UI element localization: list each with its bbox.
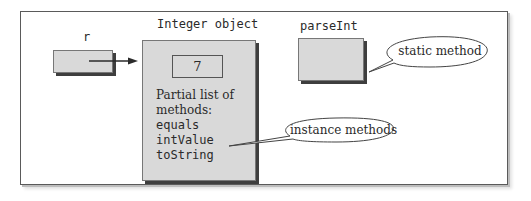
integer-object-title: Integer object xyxy=(157,17,258,31)
variable-r-label: r xyxy=(83,30,90,44)
methods-caption-line1: Partial list of xyxy=(156,88,252,103)
integer-value-box: 7 xyxy=(172,55,223,78)
methods-caption-line2: methods: xyxy=(156,103,252,118)
parseint-label: parseInt xyxy=(300,19,358,33)
integer-object-box: 7 Partial list of methods: equals intVal… xyxy=(142,40,256,181)
variable-r-box xyxy=(53,50,113,73)
static-method-callout-text: static method xyxy=(397,44,483,58)
method-tostring: toString xyxy=(156,148,252,163)
instance-methods-callout-text: instance methods xyxy=(290,123,390,137)
method-intvalue: intValue xyxy=(156,133,252,148)
method-equals: equals xyxy=(156,118,252,133)
method-list: Partial list of methods: equals intValue… xyxy=(156,88,252,163)
diagram-frame xyxy=(20,11,508,185)
parseint-box xyxy=(298,38,364,81)
